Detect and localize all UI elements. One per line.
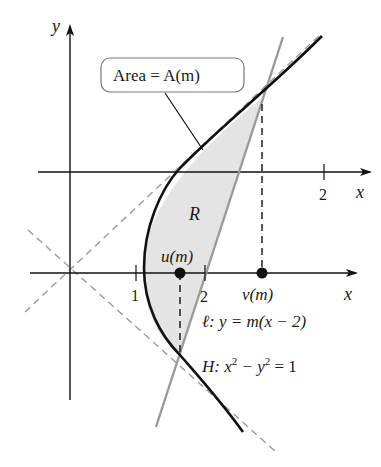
x-axis-upper-label: x: [355, 182, 364, 202]
point-u: [175, 268, 186, 279]
x-axis-label: x: [343, 284, 352, 304]
callout-text: Area = A(m): [113, 66, 200, 85]
hyperbola-label-mid: − y: [237, 357, 265, 376]
hyperbola-label-prefix: H: x: [201, 357, 232, 376]
point-v: [257, 268, 268, 279]
y-axis-label: y: [50, 16, 60, 36]
tick-label-2: 2: [200, 288, 208, 305]
point-u-label: u(m): [161, 247, 193, 266]
point-v-label: v(m): [242, 285, 273, 304]
callout-leader: [165, 93, 203, 150]
hyperbola-diagram: Area = A(m) y x x 1 2 2 R u(m) v(m) ℓ: y…: [0, 0, 381, 467]
tick-label-1: 1: [131, 287, 139, 304]
line-l-label: ℓ: y = m(x − 2): [202, 312, 306, 331]
hyperbola-label-suffix: = 1: [270, 357, 297, 376]
hyperbola-label: H: x2 − y2 = 1: [201, 355, 297, 376]
region-label: R: [188, 204, 200, 224]
tick-label-2-upper: 2: [319, 186, 327, 203]
